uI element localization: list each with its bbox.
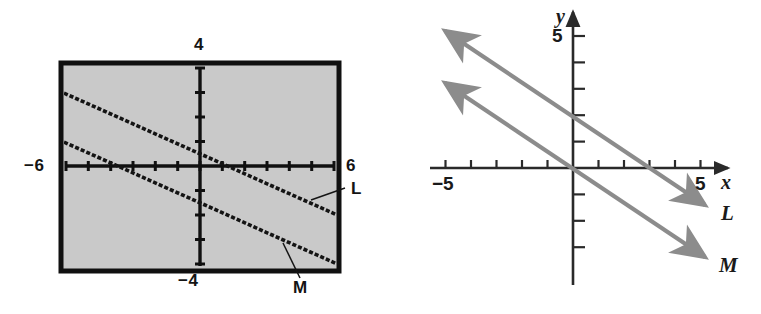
plane-y-axis-label: y xyxy=(556,6,565,26)
plane-line-M xyxy=(445,83,705,257)
calc-label-ymax: 4 xyxy=(194,36,204,53)
plane-line-L xyxy=(445,31,705,205)
calc-label-xmin: −6 xyxy=(24,157,44,174)
plane-line-label-L: L xyxy=(721,203,734,224)
plane-y-tick-label-5: 5 xyxy=(552,26,563,45)
calc-callout-M: M xyxy=(293,279,307,296)
plane-x-tick-label-neg5: −5 xyxy=(432,174,454,193)
calc-label-ymin: −4 xyxy=(178,272,198,289)
calc-label-xmax: 6 xyxy=(346,157,356,174)
plane-y-ticks xyxy=(573,36,585,247)
plane-line-label-M: M xyxy=(719,255,738,276)
calculator-screen-graphic xyxy=(0,0,380,314)
coordinate-plane-graphic xyxy=(380,0,761,314)
plane-x-tick-label-5: 5 xyxy=(695,174,706,193)
calc-callout-L: L xyxy=(351,180,361,197)
coordinate-plane-panel: y x 5 −5 5 L M xyxy=(380,0,761,314)
plane-x-axis-label: x xyxy=(721,172,731,192)
calculator-panel: 4 −6 6 −4 L M xyxy=(0,0,380,314)
